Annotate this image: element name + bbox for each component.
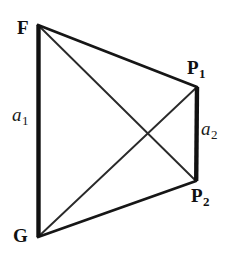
edge-F-P2 (38, 25, 196, 181)
side-label-a1-text: a (12, 104, 22, 125)
vertex-label-P2-subscript: 2 (203, 194, 210, 209)
vertex-label-P2-text: P (191, 185, 203, 206)
edge-G-P1 (38, 87, 197, 237)
side-label-a1: a1 (12, 105, 29, 127)
edge-F-P1 (38, 25, 197, 87)
vertex-label-F: F (17, 18, 29, 37)
vertex-label-G-text: G (13, 225, 28, 246)
side-label-a2-text: a (201, 118, 211, 139)
vertex-label-P1-subscript: 1 (199, 66, 206, 81)
vertex-label-F-text: F (17, 17, 29, 38)
vertex-label-G: G (13, 226, 28, 245)
side-label-a1-subscript: 1 (22, 113, 29, 128)
side-label-a2-subscript: 2 (211, 127, 218, 142)
geometry-figure: F G P1 P2 a1 a2 (0, 0, 232, 257)
vertex-label-P2: P2 (191, 186, 210, 208)
edge-P1-P2 (196, 87, 197, 181)
side-label-a2: a2 (201, 119, 218, 141)
edge-G-P2 (38, 181, 196, 237)
figure-canvas (0, 0, 232, 257)
vertex-label-P1-text: P (187, 57, 199, 78)
vertex-label-P1: P1 (187, 58, 206, 80)
